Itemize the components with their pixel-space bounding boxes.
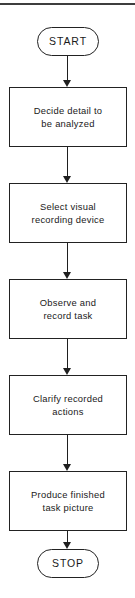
arrow-step3-to-step4 (61, 339, 75, 375)
arrow-head-icon (63, 368, 71, 375)
node-start-label: START (49, 36, 87, 47)
arrow-head-icon (63, 80, 71, 87)
node-step2[interactable]: Select visual recording device (9, 183, 127, 243)
arrow-head-icon (63, 176, 71, 183)
node-stop-label: STOP (52, 558, 84, 569)
node-step1[interactable]: Decide detail to be analyzed (9, 87, 127, 147)
arrow-step2-to-step3 (61, 243, 75, 279)
node-step3[interactable]: Observe and record task (9, 279, 127, 339)
arrow-step4-to-step5 (61, 435, 75, 471)
node-step1-label: Decide detail to be analyzed (28, 104, 109, 130)
arrow-shaft (67, 339, 68, 369)
arrow-step5-to-stop (61, 531, 75, 549)
arrow-head-icon (63, 542, 71, 549)
node-step4-label: Clarify recorded actions (27, 392, 109, 418)
arrow-step1-to-step2 (61, 147, 75, 183)
node-step5-label: Produce finished task picture (25, 488, 111, 514)
node-step5[interactable]: Produce finished task picture (9, 471, 127, 531)
arrow-start-to-step1 (61, 56, 75, 87)
node-step4[interactable]: Clarify recorded actions (9, 375, 127, 435)
arrow-head-icon (63, 272, 71, 279)
arrow-head-icon (63, 464, 71, 471)
node-stop[interactable]: STOP (37, 549, 99, 578)
arrow-shaft (67, 56, 68, 81)
node-start[interactable]: START (37, 27, 99, 56)
node-step3-label: Observe and record task (34, 296, 102, 322)
arrow-shaft (67, 435, 68, 465)
header-rule (0, 3, 135, 5)
flowchart-canvas: START Decide detail to be analyzed Selec… (0, 0, 135, 598)
arrow-shaft (67, 147, 68, 177)
arrow-shaft (67, 243, 68, 273)
node-step2-label: Select visual recording device (26, 200, 111, 226)
